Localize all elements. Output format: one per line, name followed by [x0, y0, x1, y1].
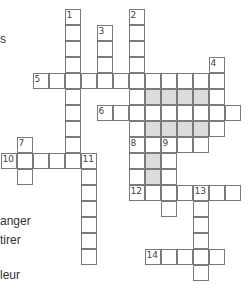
- crossword-cell[interactable]: 7: [17, 137, 33, 153]
- clue-number: 5: [35, 74, 41, 84]
- crossword-cell[interactable]: 12: [129, 185, 145, 201]
- crossword-cell[interactable]: [225, 105, 241, 121]
- shaded-cell: [161, 89, 177, 105]
- clue-text-fragment: anger: [0, 214, 31, 228]
- crossword-cell[interactable]: [193, 105, 209, 121]
- crossword-cell[interactable]: [129, 41, 145, 57]
- crossword-cell[interactable]: [161, 201, 177, 217]
- shaded-cell: [161, 121, 177, 137]
- crossword-cell[interactable]: [193, 201, 209, 217]
- crossword-cell[interactable]: [145, 137, 161, 153]
- shaded-cell: [145, 89, 161, 105]
- crossword-cell[interactable]: [129, 169, 145, 185]
- crossword-cell[interactable]: [129, 73, 145, 89]
- crossword-cell[interactable]: [209, 89, 225, 105]
- crossword-cell[interactable]: [81, 249, 97, 265]
- crossword-cell[interactable]: [65, 137, 81, 153]
- crossword-cell[interactable]: [209, 121, 225, 137]
- crossword-cell[interactable]: [209, 73, 225, 89]
- crossword-cell[interactable]: [65, 73, 81, 89]
- crossword-cell[interactable]: [65, 89, 81, 105]
- crossword-cell[interactable]: [65, 121, 81, 137]
- crossword-cell[interactable]: [193, 249, 209, 265]
- crossword-cell[interactable]: 5: [33, 73, 49, 89]
- crossword-cell[interactable]: 14: [145, 249, 161, 265]
- crossword-cell[interactable]: [17, 153, 33, 169]
- crossword-cell[interactable]: [193, 233, 209, 249]
- clue-number: 6: [99, 106, 105, 116]
- shaded-cell: [177, 89, 193, 105]
- clue-number: 12: [131, 186, 142, 196]
- crossword-cell[interactable]: [129, 153, 145, 169]
- clue-text-fragment: s: [0, 32, 6, 46]
- crossword-grid: 1234567891210111314: [0, 0, 250, 302]
- crossword-cell[interactable]: [161, 185, 177, 201]
- crossword-cell[interactable]: [81, 185, 97, 201]
- crossword-cell[interactable]: 4: [209, 57, 225, 73]
- crossword-cell[interactable]: 2: [129, 9, 145, 25]
- crossword-cell[interactable]: [113, 73, 129, 89]
- crossword-cell[interactable]: [161, 249, 177, 265]
- crossword-cell[interactable]: 13: [193, 185, 209, 201]
- crossword-cell[interactable]: [81, 169, 97, 185]
- crossword-cell[interactable]: [145, 185, 161, 201]
- crossword-cell[interactable]: [129, 25, 145, 41]
- crossword-cell[interactable]: [81, 217, 97, 233]
- crossword-cell[interactable]: [49, 73, 65, 89]
- crossword-cell[interactable]: [177, 137, 193, 153]
- crossword-cell[interactable]: [81, 73, 97, 89]
- crossword-cell[interactable]: [81, 201, 97, 217]
- crossword-cell[interactable]: [97, 73, 113, 89]
- clue-number: 1: [67, 10, 73, 20]
- crossword-cell[interactable]: [193, 217, 209, 233]
- clue-number: 10: [3, 154, 14, 164]
- crossword-cell[interactable]: [97, 57, 113, 73]
- crossword-cell[interactable]: [177, 249, 193, 265]
- crossword-cell[interactable]: [129, 57, 145, 73]
- crossword-cell[interactable]: [193, 73, 209, 89]
- crossword-cell[interactable]: [193, 137, 209, 153]
- crossword-cell[interactable]: 10: [1, 153, 17, 169]
- crossword-cell[interactable]: [145, 105, 161, 121]
- crossword-cell[interactable]: 1: [65, 9, 81, 25]
- crossword-cell[interactable]: 6: [97, 105, 113, 121]
- crossword-cell[interactable]: [161, 169, 177, 185]
- crossword-cell[interactable]: [177, 73, 193, 89]
- crossword-cell[interactable]: 11: [81, 153, 97, 169]
- clue-number: 14: [147, 250, 158, 260]
- crossword-cell[interactable]: [65, 105, 81, 121]
- clue-number: 4: [211, 58, 217, 68]
- crossword-cell[interactable]: 9: [161, 137, 177, 153]
- crossword-cell[interactable]: [129, 121, 145, 137]
- crossword-cell[interactable]: [65, 153, 81, 169]
- crossword-cell[interactable]: [113, 105, 129, 121]
- crossword-cell[interactable]: [65, 41, 81, 57]
- crossword-cell[interactable]: [17, 169, 33, 185]
- crossword-cell[interactable]: [145, 73, 161, 89]
- crossword-cell[interactable]: [33, 153, 49, 169]
- crossword-cell[interactable]: [225, 185, 241, 201]
- crossword-cell[interactable]: [209, 105, 225, 121]
- crossword-cell[interactable]: [209, 185, 225, 201]
- crossword-cell[interactable]: [177, 185, 193, 201]
- clue-text-fragment: tirer: [0, 233, 21, 247]
- crossword-cell[interactable]: [161, 153, 177, 169]
- crossword-cell[interactable]: [49, 153, 65, 169]
- crossword-cell[interactable]: [177, 105, 193, 121]
- crossword-cell[interactable]: [209, 249, 225, 265]
- crossword-cell[interactable]: [129, 105, 145, 121]
- shaded-cell: [193, 121, 209, 137]
- shaded-cell: [177, 121, 193, 137]
- clue-number: 9: [163, 138, 169, 148]
- crossword-cell[interactable]: [129, 89, 145, 105]
- crossword-cell[interactable]: [97, 41, 113, 57]
- crossword-cell[interactable]: 8: [129, 137, 145, 153]
- crossword-cell[interactable]: 3: [97, 25, 113, 41]
- crossword-cell[interactable]: [65, 25, 81, 41]
- crossword-cell[interactable]: [65, 57, 81, 73]
- clue-text-fragment: leur: [0, 268, 20, 282]
- crossword-cell[interactable]: [161, 73, 177, 89]
- crossword-cell[interactable]: [161, 105, 177, 121]
- crossword-cell[interactable]: [193, 265, 209, 281]
- crossword-cell[interactable]: [81, 233, 97, 249]
